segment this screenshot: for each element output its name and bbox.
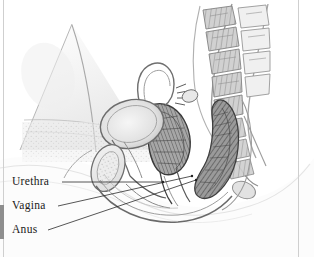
page-left-tab-marker	[0, 205, 4, 239]
anatomy-sketch-illustration	[0, 0, 314, 257]
label-urethra: Urethra	[12, 176, 49, 188]
label-anus: Anus	[12, 224, 37, 236]
anatomy-figure-page: Urethra Vagina Anus	[0, 0, 314, 257]
label-vagina: Vagina	[12, 200, 46, 212]
page-right-rule	[298, 0, 299, 257]
